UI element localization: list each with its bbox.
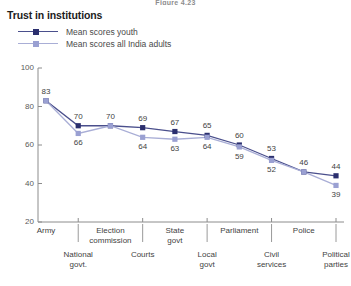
y-tick-label: 20: [12, 217, 34, 226]
data-point-label: 67: [165, 118, 185, 127]
data-point-label: 70: [100, 112, 120, 121]
x-axis-label: Stategovt: [144, 226, 206, 245]
data-point-label: 70: [68, 112, 88, 121]
y-tick-label: 80: [12, 102, 34, 111]
data-point-label: 59: [229, 152, 249, 161]
data-point-label: 64: [197, 142, 217, 151]
x-axis-label: Police: [273, 226, 335, 236]
data-point-label: 66: [68, 138, 88, 147]
y-tick-label: 60: [12, 140, 34, 149]
y-tick-label: 40: [12, 179, 34, 188]
data-point-label: 46: [294, 158, 314, 167]
data-point-label: 83: [36, 87, 56, 96]
x-axis-label: Army: [15, 226, 77, 236]
y-tick-label: 100: [12, 63, 34, 72]
data-point-label: 53: [262, 144, 282, 153]
data-point-label: 63: [165, 144, 185, 153]
data-point-label: 39: [326, 190, 346, 199]
x-axis-label: Parliament: [208, 226, 270, 236]
data-point-label: 65: [197, 121, 217, 130]
data-point-label: 52: [262, 165, 282, 174]
chart-plot-area: 10080604020 ArmyNationalgovt.Electioncom…: [0, 0, 351, 286]
x-axis-label: Nationalgovt.: [47, 250, 109, 269]
x-axis-label: Politicalparties: [305, 250, 351, 269]
data-point-label: 69: [133, 114, 153, 123]
x-axis-label: Localgovt: [176, 250, 238, 269]
data-point-label: 64: [133, 142, 153, 151]
x-axis-label: Courts: [112, 250, 174, 260]
x-axis-label: Civilservices: [241, 250, 303, 269]
x-axis-label: Electioncommission: [79, 226, 141, 245]
data-point-label: 60: [229, 131, 249, 140]
data-point-label: 44: [326, 162, 346, 171]
